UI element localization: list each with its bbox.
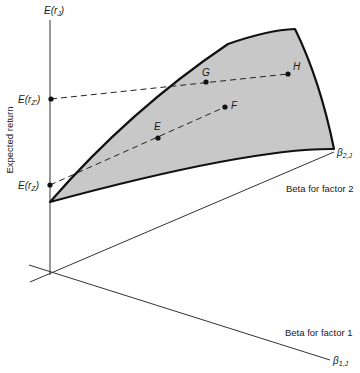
factor1-symbol: β1,J [332,355,349,367]
return-plane [50,29,334,202]
point-h [285,71,290,76]
factor2-symbol: β2,J [336,147,353,159]
point-e-label: E [154,121,161,132]
ez-label: E(rZ) [18,180,39,192]
point-h-label: H [293,61,301,72]
point-f-label: F [231,100,238,111]
point-g [203,79,208,84]
point-f [222,104,227,109]
ez-dot [47,182,52,187]
factor1-label: Beta for factor 1 [285,327,353,338]
point-e [155,135,160,140]
factor1-axis [29,265,330,360]
point-g-label: G [202,67,210,78]
vertical-axis-label: Expected return [4,106,15,173]
vertical-axis-symbol: E(rJ) [44,5,64,17]
ez-prime-dot [48,96,53,101]
factor2-label: Beta for factor 2 [286,183,354,194]
factor2-axis [30,152,334,282]
ez-prime-label: E(rZ') [18,94,40,106]
apt-diagram: E F G H E(rJ) Expected return E(rZ') E(r… [0,0,360,373]
